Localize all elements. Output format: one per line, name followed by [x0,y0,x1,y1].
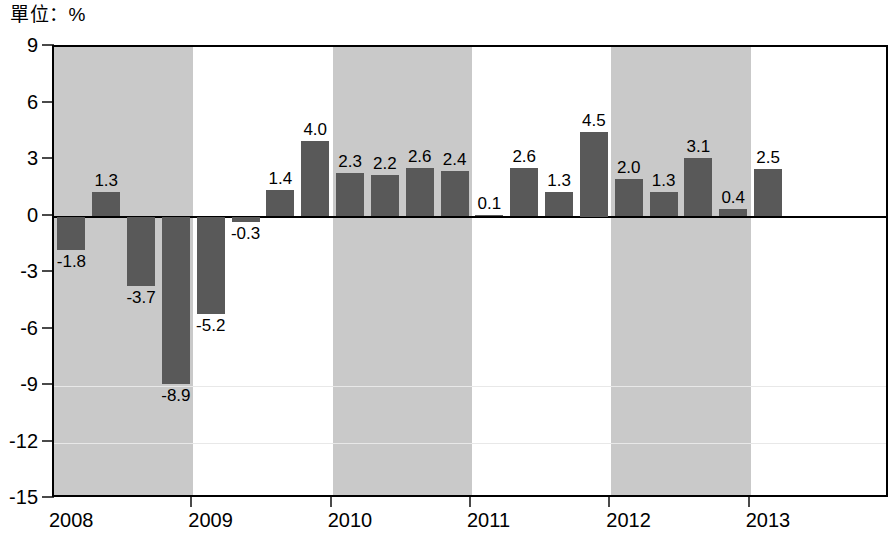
bar-2008Q2 [92,192,120,216]
x-tick-mark-2010 [330,497,332,507]
x-tick-label-2013: 2013 [746,509,791,531]
bar-label-2011Q1: 0.1 [462,194,518,213]
bar-label-2012Q2: 1.3 [636,171,692,190]
bar-label-2011Q2: 2.6 [496,147,552,166]
bar-2010Q2 [371,175,399,216]
y-tick-label--6: -6 [20,317,38,339]
x-tick-mark-2013 [748,497,750,507]
y-tick-label-6: 6 [27,91,38,113]
y-tick-label--12: -12 [9,430,38,452]
bar-label-2013Q1: 2.5 [740,148,796,167]
x-tick-label-2010: 2010 [328,509,373,531]
bar-label-2009Q2: -0.3 [218,224,274,243]
y-tick-label-9: 9 [27,34,38,56]
gridline--12 [54,443,886,444]
bar-2011Q1 [475,215,503,217]
bar-label-2008Q1: -1.8 [44,252,100,271]
bar-label-2009Q4: 4.0 [287,120,343,139]
x-tick-label-2011: 2011 [467,509,510,531]
bar-2009Q3 [266,190,294,216]
bar-2010Q3 [406,168,434,217]
x-tick-mark-2011 [469,497,471,507]
bar-label-2008Q2: 1.3 [78,171,134,190]
bar-label-2008Q3: -3.7 [113,288,169,307]
y-tick-label--9: -9 [20,373,38,395]
bar-2012Q2 [650,192,678,216]
y-axis-labels: 9630-3-6-9-12-15 [0,0,38,548]
bar-2008Q3 [127,217,155,287]
y-tick-label--15: -15 [9,486,38,508]
y-tick-label--3: -3 [20,260,38,282]
year-band-2012 [611,47,750,495]
bar-2008Q1 [57,217,85,251]
x-tick-label-2008: 2008 [49,509,94,531]
bar-2011Q3 [545,192,573,216]
x-tick-mark-2012 [608,497,610,507]
y-tick-label-0: 0 [27,204,38,226]
x-tick-mark-2009 [190,497,192,507]
plot-area: -1.81.3-3.7-8.9-5.2-0.31.44.02.32.22.62.… [52,45,888,497]
bar-label-2009Q1: -5.2 [183,316,239,335]
bar-label-2012Q3: 3.1 [671,137,727,156]
chart-container: 單位：% 9630-3-6-9-12-15 -1.81.3-3.7-8.9-5.… [0,0,893,548]
x-tick-label-2009: 2009 [188,509,233,531]
y-tick-label-3: 3 [27,147,38,169]
bar-label-2012Q4: 0.4 [705,188,761,207]
x-tick-label-2012: 2012 [606,509,651,531]
bar-label-2009Q3: 1.4 [253,169,309,188]
year-band-2010 [333,47,472,495]
bar-label-2011Q4: 4.5 [566,111,622,130]
bar-2010Q1 [336,173,364,216]
bar-label-2008Q4: -8.9 [148,386,204,405]
bar-2009Q2 [232,217,260,223]
bar-label-2010Q4: 2.4 [427,150,483,169]
bar-2012Q4 [719,209,747,217]
bar-label-2011Q3: 1.3 [531,171,587,190]
